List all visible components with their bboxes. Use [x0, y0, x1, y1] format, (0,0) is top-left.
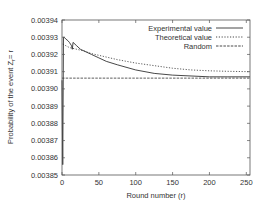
y-tick-label: 0.00386 [31, 153, 58, 162]
y-tick-label: 0.00389 [31, 102, 58, 111]
legend: Experimental valueTheoretical valueRando… [148, 24, 243, 51]
legend-label: Theoretical value [155, 33, 212, 42]
series-line-theoretical-value [63, 44, 250, 72]
x-tick-label: 150 [166, 178, 179, 187]
x-tick-label: 50 [95, 178, 103, 187]
x-tick-label: 100 [129, 178, 142, 187]
x-tick-label: 200 [203, 178, 216, 187]
legend-label: Experimental value [148, 24, 212, 33]
series-line-experimental-value [62, 37, 250, 164]
plot-frame [62, 20, 250, 175]
y-axis-label-main: Probability of the event Z [6, 61, 15, 144]
y-tick-label: 0.00390 [31, 84, 58, 93]
y-tick-label: 0.00388 [31, 119, 58, 128]
ticks-layer: 0.003850.003860.003870.003880.003890.003… [31, 16, 253, 188]
y-tick-label: 0.00393 [31, 33, 58, 42]
y-axis-label-suffix: = r [6, 50, 15, 59]
legend-label: Random [184, 42, 212, 51]
x-tick-label: 0 [60, 178, 64, 187]
y-tick-label: 0.00394 [31, 16, 58, 25]
series-layer [62, 37, 250, 164]
y-tick-label: 0.00391 [31, 67, 58, 76]
chart: 0.003850.003860.003870.003880.003890.003… [0, 0, 267, 210]
y-axis-label: Probability of the event Zr= r [6, 50, 16, 144]
y-tick-label: 0.00392 [31, 50, 58, 59]
x-axis-label: Round number (r) [126, 191, 186, 200]
x-tick-label: 250 [240, 178, 253, 187]
y-tick-label: 0.00385 [31, 171, 58, 180]
y-tick-label: 0.00387 [31, 136, 58, 145]
